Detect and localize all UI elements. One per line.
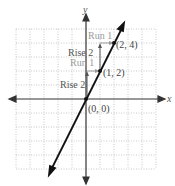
coordinate-plane: x y (0, 0) (1, 2) (2, 4) Rise 2 Run 1 Ri…: [0, 0, 175, 186]
y-axis-label: y: [82, 4, 88, 15]
point-label-1-2: (1, 2): [103, 67, 125, 79]
point-label-2-4: (2, 4): [116, 39, 138, 51]
rise-label-2: Rise 2: [68, 47, 93, 58]
run-label-1: Run 1: [70, 57, 94, 68]
rise-label-1: Rise 2: [60, 79, 85, 90]
point-origin: [84, 97, 88, 101]
point-label-origin: (0, 0): [88, 103, 110, 115]
x-axis-label: x: [166, 93, 172, 104]
run-label-2: Run 1: [88, 30, 112, 41]
point-1-2: [98, 69, 102, 73]
